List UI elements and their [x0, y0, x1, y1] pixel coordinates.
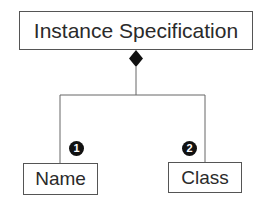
class-box: Class — [168, 162, 242, 193]
instance-specification-box: Instance Specification — [19, 11, 253, 50]
badge-1: 1 — [69, 141, 84, 156]
class-label: Class — [181, 167, 229, 189]
name-label: Name — [35, 168, 86, 190]
badge-2: 2 — [182, 141, 197, 156]
composition-diamond-icon — [129, 50, 143, 67]
instance-specification-label: Instance Specification — [34, 19, 238, 43]
name-box: Name — [23, 163, 98, 195]
